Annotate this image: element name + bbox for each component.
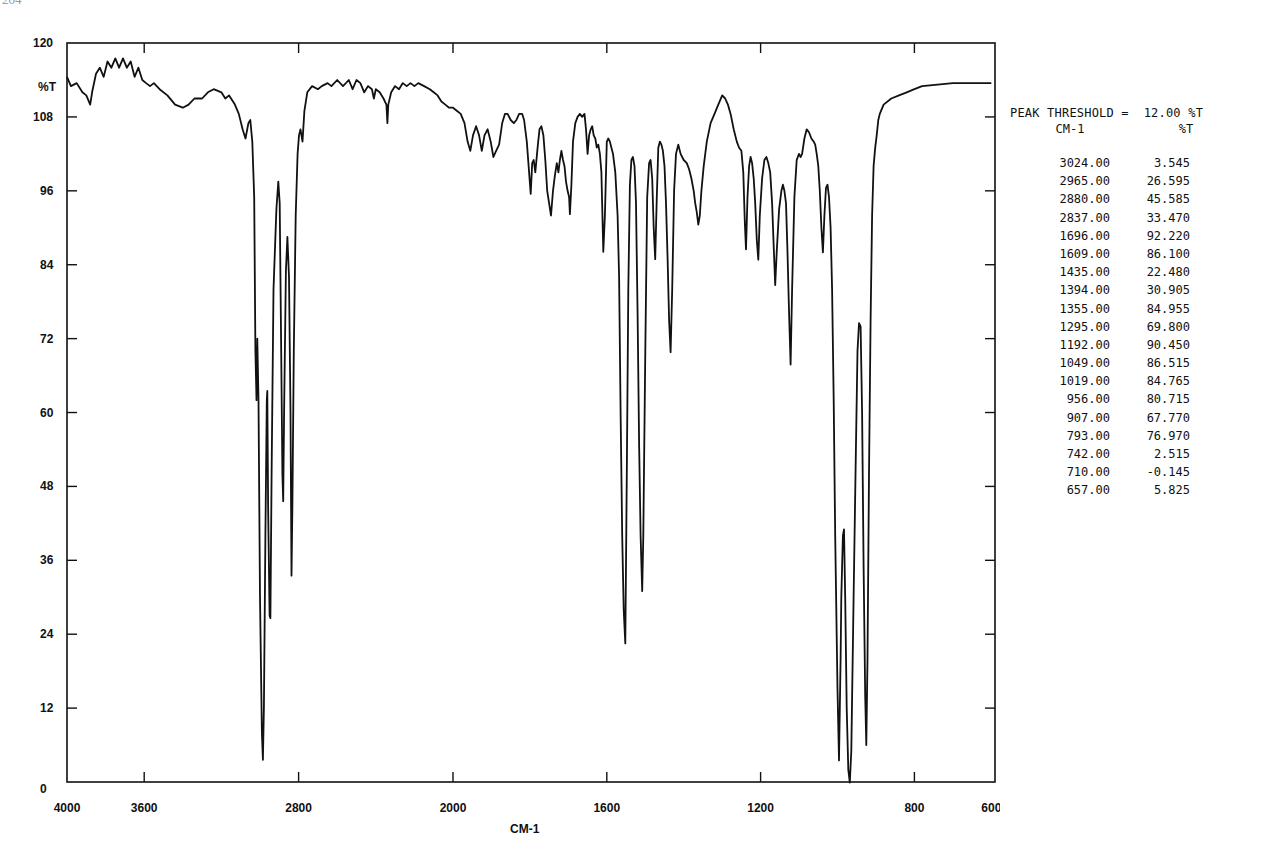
peak-wavenumber: 1019.00 (1010, 372, 1110, 390)
x-tick-label: 600 (981, 801, 1000, 815)
peak-table: 3024.003.5452965.0026.5952880.0045.58528… (1010, 154, 1275, 500)
peak-row: 793.0076.970 (1010, 427, 1275, 445)
peak-wavenumber: 1609.00 (1010, 245, 1110, 263)
peak-row: 2965.0026.595 (1010, 172, 1275, 190)
peak-wavenumber: 2965.00 (1010, 172, 1110, 190)
peak-threshold-value: 12.00 %T (1144, 106, 1203, 120)
peak-row: 3024.003.545 (1010, 154, 1275, 172)
y-tick-label: 36 (40, 553, 54, 567)
peak-wavenumber: 1696.00 (1010, 227, 1110, 245)
peak-row: 1696.0092.220 (1010, 227, 1275, 245)
x-tick-label: 2000 (440, 801, 467, 815)
x-tick-label: 3600 (131, 801, 158, 815)
col-header-wavenumber: CM-1 (1010, 122, 1120, 136)
peak-transmittance: 3.545 (1110, 154, 1190, 172)
peak-wavenumber: 3024.00 (1010, 154, 1110, 172)
y-tick-label: 48 (40, 479, 54, 493)
peak-row: 1394.0030.905 (1010, 281, 1275, 299)
peak-row: 1435.0022.480 (1010, 263, 1275, 281)
peak-transmittance: 86.515 (1110, 354, 1190, 372)
peak-wavenumber: 1355.00 (1010, 300, 1110, 318)
peak-row: 1019.0084.765 (1010, 372, 1275, 390)
peak-transmittance: 90.450 (1110, 336, 1190, 354)
x-tick-label: 1600 (593, 801, 620, 815)
peak-threshold-line: PEAK THRESHOLD = 12.00 %T (1010, 106, 1275, 120)
peak-row: 907.0067.770 (1010, 409, 1275, 427)
peak-transmittance: 76.970 (1110, 427, 1190, 445)
y-tick-label: 72 (40, 332, 54, 346)
peak-transmittance: 80.715 (1110, 390, 1190, 408)
y-tick-label: 24 (40, 627, 54, 641)
peak-wavenumber: 742.00 (1010, 445, 1110, 463)
peak-row: 1609.0086.100 (1010, 245, 1275, 263)
y-axis-label: %T (38, 80, 57, 94)
peak-transmittance: 69.800 (1110, 318, 1190, 336)
peak-row: 657.005.825 (1010, 481, 1275, 499)
y-tick-label: 120 (33, 36, 53, 50)
peak-transmittance: 84.765 (1110, 372, 1190, 390)
peak-row: 742.002.515 (1010, 445, 1275, 463)
peak-transmittance: 22.480 (1110, 263, 1190, 281)
x-tick-label: 1200 (747, 801, 774, 815)
y-tick-label: 0 (40, 782, 47, 796)
spectrum-line (67, 58, 991, 782)
peak-table-panel: PEAK THRESHOLD = 12.00 %T CM-1 %T 3024.0… (1010, 106, 1275, 500)
peak-wavenumber: 2880.00 (1010, 190, 1110, 208)
peak-transmittance: 84.955 (1110, 300, 1190, 318)
x-axis-ticks: 400036002800200016001200800600 (54, 43, 1000, 815)
peak-threshold-label: PEAK THRESHOLD = (1010, 106, 1129, 120)
peak-row: 1355.0084.955 (1010, 300, 1275, 318)
peak-transmittance: -0.145 (1110, 463, 1190, 481)
col-header-transmittance: %T (1120, 122, 1226, 136)
peak-wavenumber: 1049.00 (1010, 354, 1110, 372)
peak-wavenumber: 1192.00 (1010, 336, 1110, 354)
y-tick-label: 108 (33, 110, 53, 124)
peak-wavenumber: 793.00 (1010, 427, 1110, 445)
peak-row: 2880.0045.585 (1010, 190, 1275, 208)
y-tick-label: 84 (40, 258, 54, 272)
y-tick-label: 12 (40, 701, 54, 715)
y-tick-label: 96 (40, 184, 54, 198)
peak-wavenumber: 907.00 (1010, 409, 1110, 427)
x-axis-label: CM-1 (510, 822, 540, 836)
peak-wavenumber: 1394.00 (1010, 281, 1110, 299)
peak-row: 956.0080.715 (1010, 390, 1275, 408)
y-axis-ticks: 01224364860728496108120 (33, 36, 995, 796)
peak-wavenumber: 956.00 (1010, 390, 1110, 408)
peak-transmittance: 5.825 (1110, 481, 1190, 499)
y-tick-label: 60 (40, 406, 54, 420)
peak-row: 2837.0033.470 (1010, 209, 1275, 227)
x-tick-label: 2800 (285, 801, 312, 815)
peak-transmittance: 2.515 (1110, 445, 1190, 463)
peak-wavenumber: 1295.00 (1010, 318, 1110, 336)
peak-transmittance: 30.905 (1110, 281, 1190, 299)
ir-spectrum-chart: 01224364860728496108120 4000360028002000… (0, 0, 1000, 850)
peak-transmittance: 92.220 (1110, 227, 1190, 245)
x-tick-label: 800 (904, 801, 924, 815)
peak-row: 1295.0069.800 (1010, 318, 1275, 336)
x-tick-label: 4000 (54, 801, 81, 815)
peak-row: 710.00-0.145 (1010, 463, 1275, 481)
peak-transmittance: 33.470 (1110, 209, 1190, 227)
peak-row: 1049.0086.515 (1010, 354, 1275, 372)
peak-transmittance: 26.595 (1110, 172, 1190, 190)
peak-wavenumber: 657.00 (1010, 481, 1110, 499)
peak-column-headers: CM-1 %T (1010, 122, 1275, 136)
peak-transmittance: 45.585 (1110, 190, 1190, 208)
peak-wavenumber: 710.00 (1010, 463, 1110, 481)
peak-wavenumber: 1435.00 (1010, 263, 1110, 281)
peak-transmittance: 86.100 (1110, 245, 1190, 263)
peak-wavenumber: 2837.00 (1010, 209, 1110, 227)
peak-row: 1192.0090.450 (1010, 336, 1275, 354)
peak-transmittance: 67.770 (1110, 409, 1190, 427)
